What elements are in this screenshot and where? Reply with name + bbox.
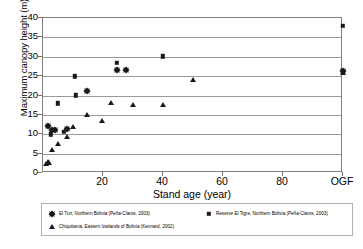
x-axis-tick-label: 60 — [200, 176, 244, 187]
legend-entry: Reserve El Tigre, Northern Bolivia (Peña… — [205, 210, 328, 218]
data-point-square — [161, 54, 165, 58]
data-point-triangle — [130, 102, 136, 107]
legend-square-icon — [205, 210, 213, 218]
x-axis-tick-mark — [222, 172, 223, 176]
y-axis-tick-label: 10 — [16, 128, 38, 138]
data-point-square — [341, 24, 345, 28]
data-point-triangle — [108, 100, 114, 105]
x-axis-title: Stand age (year) — [42, 188, 342, 200]
data-point-triangle — [46, 160, 52, 165]
legend-entry: El Turi, Northern Bolivia (Peña-Claros, … — [48, 210, 150, 218]
gridline — [43, 57, 341, 58]
data-point-diamond — [122, 66, 129, 73]
data-point-square — [114, 60, 118, 64]
data-point-diamond — [83, 87, 90, 94]
x-axis-tick-mark — [162, 172, 163, 176]
data-point-triangle — [160, 102, 166, 107]
y-axis-tick-label: 30 — [16, 51, 38, 61]
x-axis-tick-mark — [282, 172, 283, 176]
square-marker — [207, 212, 211, 216]
data-point-triangle — [55, 141, 61, 146]
y-axis-tick-label: 5 — [16, 148, 38, 158]
data-point-triangle — [84, 112, 90, 117]
x-axis-tick-label: 40 — [140, 176, 184, 187]
triangle-marker — [49, 224, 55, 229]
legend-triangle-icon — [48, 223, 56, 231]
gridline — [43, 96, 341, 97]
data-point-triangle — [190, 77, 196, 82]
data-point-triangle — [340, 70, 346, 75]
y-axis-tick-label: 15 — [16, 109, 38, 119]
y-axis-tick-label: 25 — [16, 70, 38, 80]
legend-entry-label: Chiquitania, Eastern lowlands of Bolivia… — [59, 224, 174, 230]
y-axis-tick-label: 20 — [16, 90, 38, 100]
data-point-square — [74, 93, 78, 97]
x-axis-tick-label: 20 — [80, 176, 124, 187]
data-point-square — [56, 101, 60, 105]
legend-diamond-icon — [48, 210, 56, 218]
legend-entry-label: El Turi, Northern Bolivia (Peña-Claros, … — [59, 211, 150, 217]
y-axis-tick-label: 35 — [16, 31, 38, 41]
plot-area — [42, 17, 342, 172]
gridline — [43, 154, 341, 155]
legend-entry: Chiquitania, Eastern lowlands of Bolivia… — [48, 223, 174, 231]
data-point-triangle — [49, 147, 55, 152]
data-point-triangle — [64, 134, 70, 139]
x-axis-tick-mark — [102, 172, 103, 176]
legend-entry-label: Reserve El Tigre, Northern Bolivia (Peña… — [216, 211, 328, 217]
data-point-square — [48, 132, 52, 136]
data-point-triangle — [70, 124, 76, 129]
y-axis-tick-mark — [38, 172, 42, 173]
y-axis-tick-label: 0 — [16, 167, 38, 177]
chart-legend: El Turi, Northern Bolivia (Peña-Claros, … — [41, 203, 353, 236]
gridline — [43, 134, 341, 135]
data-point-square — [72, 74, 76, 78]
diamond-marker — [48, 210, 55, 217]
data-point-triangle — [99, 118, 105, 123]
gridline — [43, 37, 341, 38]
scatter-chart-figure: Maximum canopy height (m) 05101520253035… — [0, 0, 363, 249]
x-axis-tick-label: OGF — [320, 176, 363, 187]
x-axis-tick-label: 80 — [260, 176, 304, 187]
x-axis-tick-mark — [342, 172, 343, 176]
y-axis-tick-label: 40 — [16, 12, 38, 22]
data-point-diamond — [113, 66, 120, 73]
